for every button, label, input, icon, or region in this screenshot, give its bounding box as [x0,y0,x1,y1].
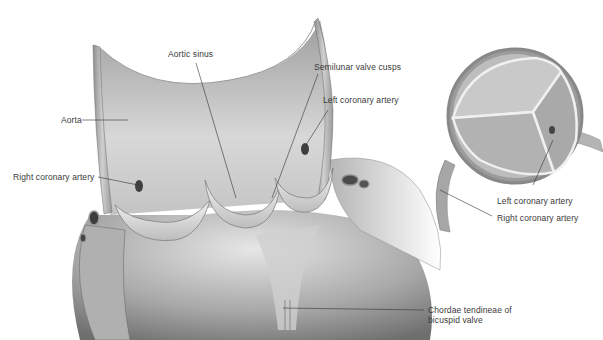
label-semilunar-valve-cusps: Semilunar valve cusps [314,62,401,72]
label-chordae-tendineae: Chordae tendineae of bicuspid valve [428,305,512,325]
label-right-coronary-artery-main: Right coronary artery [13,172,94,182]
label-chordae-line1: Chordae tendineae of [428,305,512,315]
aortic-valve-illustration: Aorta Aortic sinus Semilunar valve cusps… [0,0,603,340]
anatomy-drawing [0,0,603,340]
label-right-coronary-artery-inset: Right coronary artery [497,213,578,223]
label-aortic-sinus: Aortic sinus [168,49,213,59]
label-chordae-line2: bicuspid valve [428,315,512,325]
label-aorta: Aorta [61,115,82,125]
label-left-coronary-artery-main: Left coronary artery [323,95,399,105]
label-left-coronary-artery-inset: Left coronary artery [497,196,573,206]
